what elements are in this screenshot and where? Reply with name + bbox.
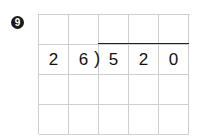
- divisor-digit: 2: [39, 45, 69, 75]
- work-cell[interactable]: [69, 75, 99, 105]
- work-cell[interactable]: [159, 75, 189, 105]
- problem-number-badge: 9: [11, 16, 24, 29]
- answer-cell[interactable]: [99, 15, 129, 45]
- division-vinculum: [98, 43, 189, 44]
- answer-cell[interactable]: [129, 15, 159, 45]
- work-cell[interactable]: [39, 105, 69, 135]
- dividend-digit: 0: [159, 45, 189, 75]
- answer-cell[interactable]: [69, 15, 99, 45]
- answer-cell[interactable]: [39, 15, 69, 45]
- work-cell[interactable]: [99, 105, 129, 135]
- work-cell[interactable]: [39, 75, 69, 105]
- work-cell[interactable]: [129, 75, 159, 105]
- answer-cell[interactable]: [159, 15, 189, 45]
- long-division-grid: 2 6 5 2 0: [38, 14, 190, 134]
- division-bracket: ): [94, 44, 100, 72]
- work-cell[interactable]: [99, 75, 129, 105]
- work-cell[interactable]: [69, 105, 99, 135]
- work-cell[interactable]: [159, 105, 189, 135]
- dividend-digit: 2: [129, 45, 159, 75]
- dividend-digit: 5: [99, 45, 129, 75]
- work-cell[interactable]: [129, 105, 159, 135]
